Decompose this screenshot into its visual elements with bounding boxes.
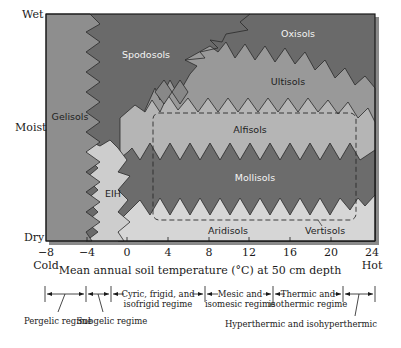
moisture-label-moist: Moist — [15, 121, 46, 134]
tick-label: 24 — [365, 246, 379, 259]
label-gelisols: Gelisols — [52, 111, 89, 122]
label-aridisols: Aridisols — [208, 225, 248, 236]
label-eih: EIH — [105, 188, 121, 199]
regime-cryic-line1: Cyric, frigid, and — [121, 289, 194, 299]
tick-label: 4 — [165, 246, 172, 259]
tick-label: 12 — [242, 246, 256, 259]
moisture-label-wet: Wet — [22, 8, 43, 21]
regime-thermic: Thermic and isothermic regime — [269, 289, 348, 309]
regime-hyperthermic: Hyperthermic and isohyperthermic — [225, 319, 377, 329]
label-oxisols: Oxisols — [281, 28, 315, 39]
region-gelisols — [46, 14, 100, 241]
tick-label: 16 — [283, 246, 297, 259]
tick-label: 8 — [206, 246, 213, 259]
regime-thermic-line2: isothermic regime — [269, 299, 348, 309]
regime-cryic: Cyric, frigid, and isofrigid regime — [121, 289, 194, 309]
label-mollisols: Mollisols — [235, 172, 275, 183]
label-ultisols: Ultisols — [271, 76, 305, 87]
regime-thermic-line1: Thermic and — [269, 289, 348, 299]
tick-label: 0 — [124, 246, 131, 259]
regime-mesic-line2: isomesic regime — [205, 299, 275, 309]
x-axis-cold-label: Cold — [33, 259, 59, 272]
regime-mesic: Mesic and isomesic regime — [205, 289, 275, 309]
label-vertisols: Vertisols — [305, 225, 345, 236]
tick-label: 20 — [324, 246, 338, 259]
tick-label: −8 — [38, 246, 54, 259]
tick-label: −4 — [79, 246, 95, 259]
regime-subgelic: Subgelic regime — [77, 316, 147, 326]
moisture-label-dry: Dry — [24, 231, 44, 244]
x-axis-title: Mean annual soil temperature (°C) at 50 … — [59, 264, 342, 277]
label-alfisols: Alfisols — [233, 124, 266, 135]
regime-cryic-line2: isofrigid regime — [121, 299, 194, 309]
x-axis-hot-label: Hot — [362, 259, 383, 272]
regime-mesic-line1: Mesic and — [205, 289, 275, 299]
label-spodosols: Spodosols — [122, 49, 170, 60]
